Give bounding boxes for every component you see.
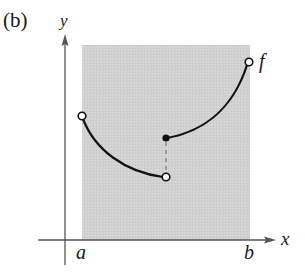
open-circle-left-endpoint-icon	[78, 112, 86, 120]
y-axis-label: y	[60, 12, 68, 29]
figure-canvas	[0, 0, 305, 275]
panel-label: (b)	[3, 10, 28, 31]
function-label: f	[259, 51, 265, 71]
open-circle-right-endpoint-icon	[245, 58, 253, 66]
y-axis	[62, 34, 69, 265]
interval-right-label: b	[244, 242, 254, 262]
filled-dot-jump-top-icon	[162, 134, 169, 141]
open-circle-jump-bottom-icon	[162, 173, 170, 181]
interval-left-label: a	[76, 242, 86, 262]
x-axis-label: x	[281, 229, 289, 248]
